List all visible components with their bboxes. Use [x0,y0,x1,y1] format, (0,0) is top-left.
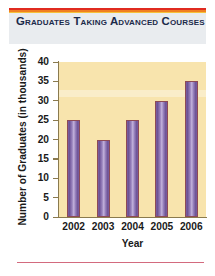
chart-title: Graduates Taking Advanced Courses [16,15,206,28]
bar-2002 [67,120,80,217]
y-tick-20 [53,139,59,140]
chart-figure: Graduates Taking Advanced Courses 403530… [0,0,215,276]
plot-area [59,62,206,217]
x-axis-title: Year [59,238,206,249]
y-axis-title: Number of Graduates (in thousands) [17,56,28,226]
bar-2006 [185,81,198,217]
y-tick-25 [53,120,59,121]
bar-2005 [155,101,168,217]
bottom-rule [17,262,204,263]
x-axis-line [58,217,207,218]
y-tick-5 [53,197,59,198]
y-tick-40 [53,62,59,63]
y-tick-10 [53,178,59,179]
y-tick-30 [53,100,59,101]
y-tick-35 [53,81,59,82]
y-tick-15 [53,158,59,159]
bar-2003 [97,140,110,218]
bar-2004 [126,120,139,217]
y-tick-0 [53,217,59,218]
x-tick-label-2006: 2006 [174,221,208,232]
